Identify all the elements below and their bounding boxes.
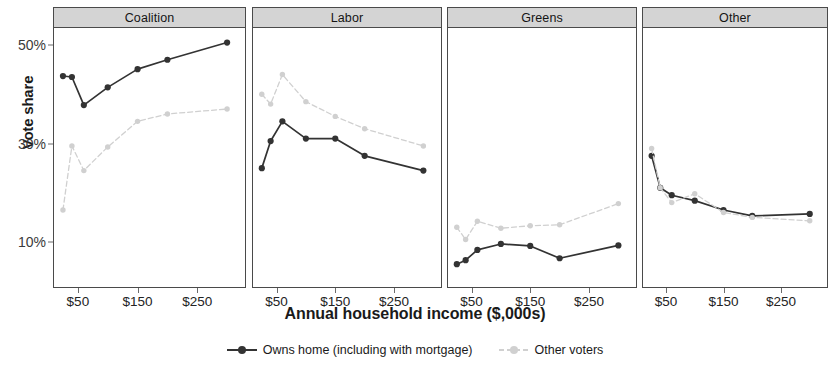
- data-point: [649, 146, 654, 151]
- data-point: [60, 207, 65, 212]
- data-point: [105, 84, 111, 90]
- legend-item: Other voters: [499, 343, 604, 357]
- data-point: [259, 165, 265, 171]
- panel-strip-label: Coalition: [125, 11, 175, 25]
- series-canvas: [448, 28, 636, 287]
- data-point: [69, 143, 74, 148]
- facet-line-chart: Vote share 10%30%50% Coalition$50$150$25…: [0, 0, 830, 365]
- series-line: [262, 75, 424, 146]
- legend-dot: [238, 346, 246, 354]
- data-point: [807, 211, 813, 217]
- panel-strip-greens: Greens: [447, 7, 637, 28]
- data-point: [615, 242, 621, 248]
- x-tick-mark: [589, 288, 590, 293]
- data-point: [164, 57, 170, 63]
- data-point: [81, 102, 87, 108]
- series-line: [457, 244, 619, 264]
- panel-strip-label: Other: [719, 11, 751, 25]
- data-point: [279, 118, 285, 124]
- chart-legend: Owns home (including with mortgage)Other…: [0, 343, 830, 357]
- x-tick-mark: [530, 288, 531, 293]
- data-point: [454, 261, 460, 267]
- x-tick-mark: [138, 288, 139, 293]
- data-point: [463, 237, 468, 242]
- data-point: [362, 126, 367, 131]
- data-point: [721, 210, 726, 215]
- series-canvas: [54, 28, 245, 287]
- series-line: [457, 204, 619, 240]
- facet-panel-greens: Greens: [447, 7, 637, 288]
- x-tick-mark: [335, 288, 336, 293]
- data-point: [224, 39, 230, 45]
- x-axis-title: Annual household income ($,000s): [0, 305, 830, 323]
- x-tick-mark: [277, 288, 278, 293]
- data-point: [332, 135, 338, 141]
- panel-strip-label: Labor: [331, 11, 363, 25]
- data-point: [474, 247, 480, 253]
- data-point: [498, 241, 504, 247]
- data-point: [557, 222, 562, 227]
- series-canvas: [253, 28, 441, 287]
- facet-panel-coalition: Coalition: [53, 7, 246, 288]
- panel-plot-area: [447, 28, 637, 288]
- data-point: [303, 135, 309, 141]
- data-point: [280, 72, 285, 77]
- series-line: [63, 109, 227, 210]
- data-point: [557, 255, 563, 261]
- data-point: [362, 153, 368, 159]
- data-point: [268, 101, 273, 106]
- series-line: [262, 121, 424, 170]
- data-point: [420, 167, 426, 173]
- data-point: [333, 114, 338, 119]
- panel-strip-labor: Labor: [252, 7, 442, 28]
- data-point: [750, 215, 755, 220]
- panel-strip-coalition: Coalition: [53, 7, 246, 28]
- data-point: [616, 201, 621, 206]
- y-tick-label: 30%: [0, 136, 46, 152]
- x-tick-mark: [472, 288, 473, 293]
- facet-panel-other: Other: [642, 7, 828, 288]
- legend-dot: [510, 346, 518, 354]
- y-tick-label: 10%: [0, 234, 46, 250]
- legend-item: Owns home (including with mortgage): [227, 343, 473, 357]
- data-point: [165, 111, 170, 116]
- y-tick-label: 50%: [0, 37, 46, 53]
- x-tick-mark: [724, 288, 725, 293]
- data-point: [528, 223, 533, 228]
- series-line: [652, 156, 810, 216]
- data-point: [421, 143, 426, 148]
- data-point: [259, 92, 264, 97]
- panel-strip-label: Greens: [521, 11, 563, 25]
- data-point: [268, 138, 274, 144]
- facet-panel-labor: Labor: [252, 7, 442, 288]
- panel-strip-other: Other: [642, 7, 828, 28]
- data-point: [81, 168, 86, 173]
- data-point: [669, 192, 675, 198]
- x-tick-mark: [78, 288, 79, 293]
- data-point: [224, 106, 229, 111]
- data-point: [527, 243, 533, 249]
- legend-label: Other voters: [535, 343, 604, 357]
- y-axis-title: Vote share: [19, 38, 36, 188]
- data-point: [60, 73, 66, 79]
- data-point: [475, 219, 480, 224]
- panel-plot-area: [642, 28, 828, 288]
- data-point: [658, 185, 663, 190]
- data-point: [669, 200, 674, 205]
- x-tick-mark: [197, 288, 198, 293]
- data-point: [303, 99, 308, 104]
- legend-label: Owns home (including with mortgage): [263, 343, 473, 357]
- data-point: [135, 119, 140, 124]
- data-point: [454, 225, 459, 230]
- x-tick-mark: [781, 288, 782, 293]
- legend-key-icon: [227, 344, 257, 356]
- x-tick-mark: [394, 288, 395, 293]
- series-line: [652, 148, 810, 220]
- data-point: [105, 144, 110, 149]
- data-point: [463, 257, 469, 263]
- data-point: [69, 74, 75, 80]
- data-point: [807, 218, 812, 223]
- data-point: [692, 191, 697, 196]
- panel-plot-area: [53, 28, 246, 288]
- series-canvas: [643, 28, 827, 287]
